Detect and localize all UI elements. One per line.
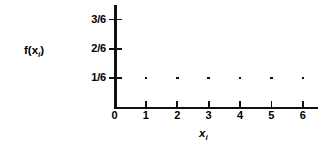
y-axis-label-base: f(x	[24, 44, 38, 56]
x-axis-tick-label: 3	[200, 110, 218, 121]
y-axis-tick-label: 2/6	[91, 43, 106, 54]
y-axis-tick-label: 3/6	[91, 14, 106, 25]
y-axis-line	[114, 5, 117, 109]
y-axis-label: f(xi)	[24, 45, 44, 59]
x-axis-tick	[145, 101, 147, 108]
data-point	[239, 77, 242, 80]
x-axis-tick	[239, 101, 241, 108]
y-axis-tick	[109, 48, 122, 50]
x-axis-tick	[302, 101, 304, 108]
x-axis-tick-label: 5	[262, 110, 280, 121]
x-axis-tick-label: 0	[106, 110, 124, 121]
y-axis-label-close: )	[40, 44, 44, 56]
data-point	[207, 77, 210, 80]
x-axis-tick	[271, 101, 273, 108]
data-point	[176, 77, 179, 80]
x-axis-label: xi	[199, 128, 208, 142]
data-point	[270, 77, 273, 80]
data-point	[145, 77, 148, 80]
x-axis-tick	[208, 101, 210, 108]
data-point	[302, 77, 305, 80]
x-axis-tick-label: 6	[294, 110, 312, 121]
y-axis-tick-label: 1/6	[91, 72, 106, 83]
x-axis-label-subscript: i	[205, 133, 207, 142]
x-axis-tick-label: 4	[231, 110, 249, 121]
x-axis-tick-label: 1	[137, 110, 155, 121]
y-axis-tick	[109, 19, 122, 21]
y-axis-tick	[109, 77, 122, 79]
x-axis-tick	[176, 101, 178, 108]
probability-mass-function-chart: 1/62/63/6 0123456 f(xi) xi	[0, 0, 336, 156]
x-axis-tick-label: 2	[168, 110, 186, 121]
